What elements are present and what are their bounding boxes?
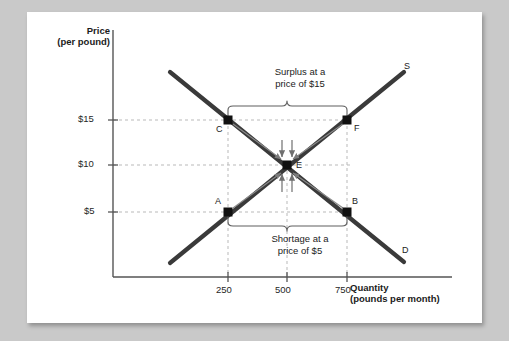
- x-tick-label-250: 250: [216, 284, 232, 295]
- shortage-brace: [228, 215, 347, 231]
- x-axis-title-line2: (pounds per month): [350, 293, 440, 304]
- surplus-arrows: [233, 124, 343, 159]
- surplus-annotation-line2: price of $15: [275, 78, 325, 89]
- shortage-annotation-line2: price of $5: [278, 245, 322, 256]
- shortage-annotation-line1: Shortage at a: [271, 233, 328, 244]
- y-axis-title: Price (per pound): [38, 25, 110, 47]
- point-marker-e: [283, 161, 292, 170]
- point-label-c: C: [216, 124, 223, 135]
- point-label-b: B: [352, 196, 358, 207]
- surplus-annotation-line1: Surplus at a: [275, 66, 326, 77]
- point-label-f: F: [354, 123, 360, 134]
- supply-curve-label: S: [404, 61, 410, 72]
- y-tick-label-5: $5: [84, 205, 95, 216]
- x-axis-title-line1: Quantity: [350, 282, 389, 293]
- point-marker-f: [343, 116, 352, 125]
- point-label-e: E: [296, 160, 302, 171]
- x-tick-label-750: 750: [335, 284, 351, 295]
- x-tick-label-500: 500: [275, 284, 291, 295]
- demand-curve-label: D: [402, 245, 409, 256]
- y-axis-title-line2: (per pound): [57, 36, 110, 47]
- point-label-a: A: [215, 196, 221, 207]
- shortage-annotation: Shortage at a price of $5: [245, 233, 355, 257]
- point-marker-c: [224, 116, 233, 125]
- surplus-brace: [228, 101, 347, 117]
- point-marker-a: [224, 208, 233, 217]
- x-axis-title: Quantity (pounds per month): [350, 282, 500, 304]
- shortage-arrows: [233, 173, 343, 208]
- y-tick-label-15: $15: [78, 113, 94, 124]
- y-axis-title-line1: Price: [87, 25, 110, 36]
- point-marker-b: [343, 208, 352, 217]
- y-tick-label-10: $10: [78, 158, 94, 169]
- surplus-annotation: Surplus at a price of $15: [250, 66, 350, 90]
